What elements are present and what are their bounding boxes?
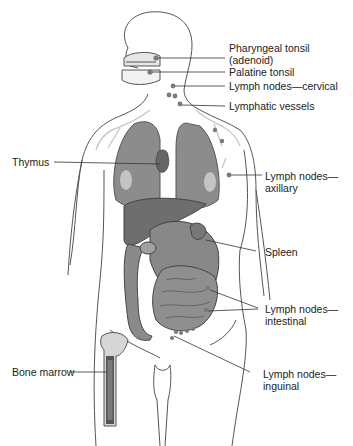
label-lymph-nodes-axillary: Lymph nodes— axillary [265, 170, 338, 194]
label-spleen: Spleen [265, 246, 298, 258]
small-intestine [153, 266, 218, 331]
label-palatine-tonsil: Palatine tonsil [229, 66, 294, 78]
label-pharyngeal-tonsil: Pharyngeal tonsil (adenoid) [229, 42, 310, 66]
left-lung [114, 122, 160, 209]
right-lung [176, 123, 219, 208]
label-lymph-nodes-inguinal: Lymph nodes— inguinal [263, 368, 336, 392]
thymus [156, 150, 169, 172]
label-bone-marrow: Bone marrow [12, 366, 74, 378]
spleen [190, 223, 206, 239]
abdominal-organs [124, 198, 219, 340]
label-thymus: Thymus [12, 156, 49, 168]
femur [101, 333, 128, 426]
large-intestine [124, 244, 152, 340]
label-lymph-nodes-cervical: Lymph nodes—cervical [229, 80, 338, 92]
label-lymph-nodes-intestinal: Lymph nodes— intestinal [265, 303, 338, 327]
label-lymphatic-vessels: Lymphatic vessels [229, 100, 314, 112]
